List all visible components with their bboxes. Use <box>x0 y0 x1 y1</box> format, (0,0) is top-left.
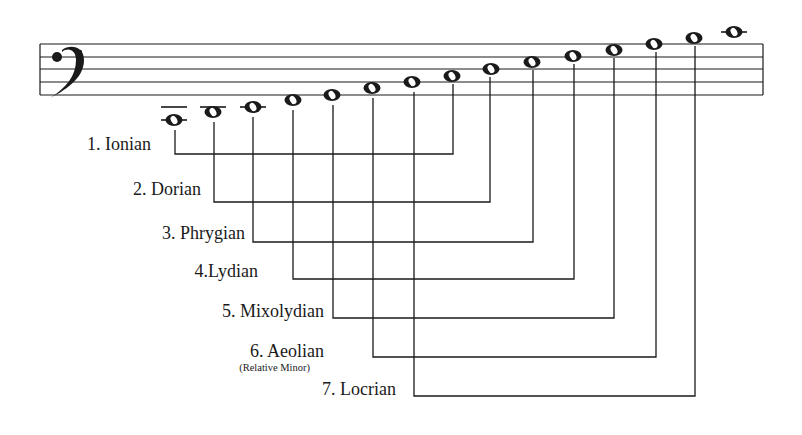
whole-note-icon <box>285 94 302 106</box>
whole-note-icon <box>721 26 747 38</box>
whole-note-icon <box>240 101 266 113</box>
mode-label: 4.Lydian <box>195 262 259 280</box>
mode-label: 5. Mixolydian <box>222 302 324 320</box>
whole-note-icon <box>161 107 187 126</box>
whole-note-icon <box>364 82 381 94</box>
whole-note-icon <box>483 63 500 75</box>
mode-label: 1. Ionian <box>87 135 151 153</box>
mode-bracket <box>214 77 490 202</box>
whole-note-icon <box>200 106 226 118</box>
mode-label: 2. Dorian <box>133 180 201 198</box>
whole-note-icon <box>686 32 703 44</box>
bass-staff <box>40 44 763 95</box>
mode-label: 6. Aeolian <box>250 342 324 360</box>
scale-notes <box>161 26 747 126</box>
mode-label: 7. Locrian <box>322 380 396 398</box>
mode-label: 3. Phrygian <box>162 224 245 242</box>
mode-bracket <box>414 46 695 396</box>
mode-sublabel: (Relative Minor) <box>239 363 310 374</box>
whole-note-icon <box>646 38 663 50</box>
whole-note-icon <box>565 50 582 62</box>
whole-note-icon <box>444 70 461 82</box>
whole-note-icon <box>524 56 541 68</box>
bass-clef-icon <box>50 47 84 98</box>
whole-note-icon <box>324 89 341 101</box>
whole-note-icon <box>404 76 421 88</box>
whole-note-icon <box>606 44 623 56</box>
modes-diagram <box>0 0 802 435</box>
